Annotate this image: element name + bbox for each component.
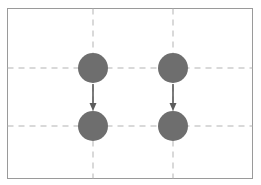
- circle-top-left: [78, 53, 108, 83]
- circle-top-right: [158, 53, 188, 83]
- circle-bottom-left: [78, 111, 108, 141]
- circle-bottom-right: [158, 111, 188, 141]
- diagram-canvas: [0, 0, 261, 185]
- canvas-background: [0, 0, 261, 185]
- diagram-svg: [0, 0, 261, 185]
